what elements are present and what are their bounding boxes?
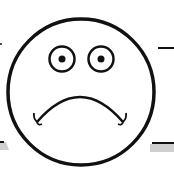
frowning-face-icon	[8, 19, 154, 165]
sad-face-illustration	[0, 0, 174, 179]
